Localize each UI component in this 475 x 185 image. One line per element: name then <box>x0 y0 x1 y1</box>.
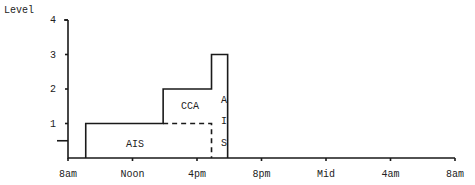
level-outline <box>86 55 228 159</box>
tick-labels: 12348amNoon4pm8pmMid4am8am <box>50 15 464 180</box>
x-tick-label: 4am <box>381 169 399 180</box>
y-tick-label: 4 <box>50 15 56 26</box>
axis-lines <box>68 20 455 158</box>
x-tick-label: Mid <box>317 169 335 180</box>
x-tick-label: Noon <box>120 169 144 180</box>
ais-dashed-boundary <box>163 124 211 159</box>
region-label-ais-v-a: A <box>221 95 227 106</box>
x-tick-label: 8pm <box>252 169 270 180</box>
data-shapes <box>86 55 228 159</box>
y-axis-title: Level <box>4 5 34 16</box>
region-label-cca: CCA <box>181 101 199 112</box>
x-tick-label: 8am <box>59 169 77 180</box>
y-tick-label: 1 <box>50 119 56 130</box>
region-label-ais: AIS <box>126 139 144 150</box>
region-label-ais-v-s: S <box>221 138 227 149</box>
region-label-ais-v-i: I <box>221 116 227 127</box>
axes <box>57 20 455 161</box>
x-tick-label: 8am <box>446 169 464 180</box>
chart-svg: Level 12348amNoon4pm8pmMid4am8am AIS CCA… <box>0 0 475 185</box>
x-tick-label: 4pm <box>188 169 206 180</box>
y-tick-label: 3 <box>50 50 56 61</box>
level-step-chart: Level 12348amNoon4pm8pmMid4am8am AIS CCA… <box>0 0 475 185</box>
y-tick-label: 2 <box>50 84 56 95</box>
